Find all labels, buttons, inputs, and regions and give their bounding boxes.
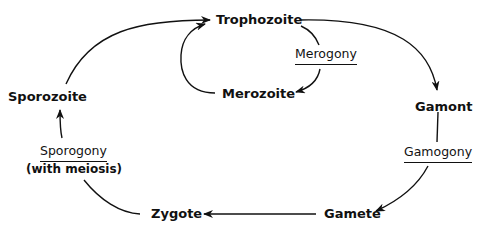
line-gamont-to-gamogony (437, 112, 438, 142)
stage-gamont: Gamont (415, 100, 472, 113)
arrow-merozoite-to-trophozoite (181, 24, 215, 93)
stage-zygote: Zygote (151, 207, 202, 220)
stage-trophozoite: Trophozoite (216, 13, 302, 26)
arrow-gamogony-to-gamete (376, 166, 428, 211)
process-merogony: Merogony (295, 48, 357, 65)
process-sporogony: Sporogony (40, 145, 107, 162)
arrow-trophozoite-to-merogony (301, 26, 319, 45)
sporogony-note: (with meiosis) (26, 163, 122, 175)
process-gamogony: Gamogony (404, 146, 472, 163)
stage-sporozoite: Sporozoite (8, 90, 87, 103)
life-cycle-diagram: Trophozoite Merogony Merozoite Sporozoit… (0, 0, 490, 238)
arrow-sporozoite-to-trophozoite (66, 20, 210, 84)
stage-merozoite: Merozoite (222, 87, 295, 100)
stage-gamete: Gamete (324, 207, 381, 220)
line-zygote-to-sporogony (84, 180, 140, 214)
arrow-merogony-to-merozoite (296, 69, 320, 92)
arrow-sporogony-to-sporozoite (60, 110, 62, 138)
diagram-arrows (0, 0, 490, 238)
